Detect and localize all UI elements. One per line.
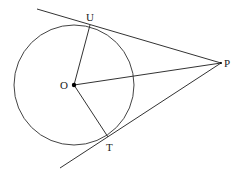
center-point-o	[72, 83, 76, 87]
label-u: U	[86, 11, 94, 23]
label-o: O	[60, 79, 68, 91]
radius-ot	[74, 85, 108, 137]
tangent-line-upper	[37, 9, 221, 63]
segment-op	[74, 63, 221, 85]
label-t: T	[106, 141, 113, 153]
geometry-diagram: U O T P	[0, 0, 240, 178]
tangent-line-lower	[60, 63, 221, 168]
label-p: P	[224, 57, 230, 69]
radius-ou	[74, 25, 90, 85]
point-p	[220, 62, 222, 64]
